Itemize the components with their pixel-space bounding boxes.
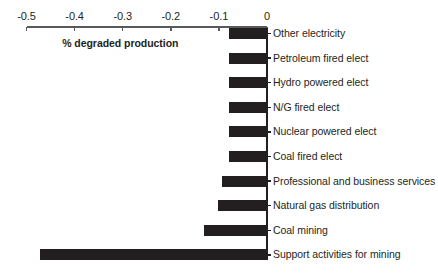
label-connector <box>268 156 271 158</box>
x-tick-mark <box>26 27 28 31</box>
category-label: Hydro powered elect <box>273 77 368 88</box>
bar <box>229 126 267 137</box>
category-label: Support activities for mining <box>273 249 401 260</box>
x-tick-label: -0.1 <box>210 10 229 22</box>
x-tick-mark <box>122 27 124 31</box>
bar <box>204 225 267 236</box>
x-tick-label: -0.5 <box>17 10 36 22</box>
bar <box>40 249 267 260</box>
bar <box>229 151 267 162</box>
x-tick-label: -0.4 <box>65 10 84 22</box>
x-tick-label: -0.2 <box>162 10 181 22</box>
label-connector <box>268 33 271 35</box>
x-axis-title: % degraded production <box>62 37 178 49</box>
category-label: Petroleum fired elect <box>273 53 368 64</box>
bar <box>229 77 267 88</box>
category-label: Professional and business services <box>273 176 435 187</box>
category-label: Natural gas distribution <box>273 200 379 211</box>
label-connector <box>268 254 271 256</box>
bar <box>222 176 267 187</box>
category-label: Coal fired elect <box>273 151 342 162</box>
category-label: Coal mining <box>273 225 328 236</box>
degraded-production-bar-chart: -0.5-0.4-0.3-0.2-0.10 % degraded product… <box>0 0 438 276</box>
bar <box>229 102 267 113</box>
label-connector <box>268 107 271 109</box>
category-label: Nuclear powered elect <box>273 126 376 137</box>
x-tick-mark <box>170 27 172 31</box>
label-connector <box>268 57 271 59</box>
bar <box>229 53 267 64</box>
label-connector <box>268 180 271 182</box>
category-label: N/G fired elect <box>273 102 339 113</box>
x-tick-label: 0 <box>264 10 270 22</box>
bar <box>218 200 267 211</box>
label-connector <box>268 230 271 232</box>
bar <box>229 28 267 39</box>
category-label: Other electricity <box>273 28 345 39</box>
x-tick-mark <box>218 27 220 31</box>
label-connector <box>268 205 271 207</box>
label-connector <box>268 82 271 84</box>
x-axis-tick-labels: -0.5-0.4-0.3-0.2-0.10 <box>0 10 438 24</box>
label-connector <box>268 131 271 133</box>
x-tick-label: -0.3 <box>113 10 132 22</box>
x-tick-mark <box>74 27 76 31</box>
